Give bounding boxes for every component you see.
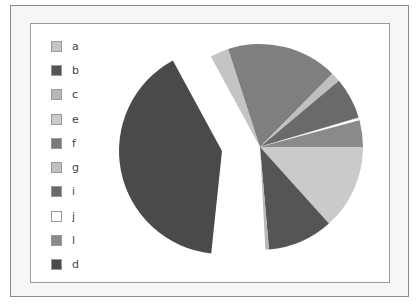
legend-swatch xyxy=(51,162,62,173)
legend-label: i xyxy=(72,185,75,198)
legend-item-a: a xyxy=(51,34,79,58)
legend-label: c xyxy=(72,88,78,101)
legend-label: g xyxy=(72,161,79,174)
legend-swatch xyxy=(51,186,62,197)
legend-label: l xyxy=(72,234,75,247)
legend-item-d: d xyxy=(51,253,79,277)
legend-swatch xyxy=(51,114,62,125)
legend-swatch xyxy=(51,89,62,100)
legend-item-j: j xyxy=(51,204,79,228)
legend-label: b xyxy=(72,64,79,77)
legend-swatch xyxy=(51,211,62,222)
legend-swatch xyxy=(51,259,62,270)
legend-label: e xyxy=(72,113,79,126)
legend-item-g: g xyxy=(51,155,79,179)
legend: a b c e f g i j l d xyxy=(51,34,79,277)
legend-label: d xyxy=(72,258,79,271)
legend-label: f xyxy=(72,137,76,150)
legend-swatch xyxy=(51,65,62,76)
legend-item-i: i xyxy=(51,180,79,204)
legend-swatch xyxy=(51,138,62,149)
legend-item-f: f xyxy=(51,131,79,155)
legend-item-l: l xyxy=(51,228,79,252)
legend-item-b: b xyxy=(51,58,79,82)
legend-swatch xyxy=(51,235,62,246)
legend-label: a xyxy=(72,40,79,53)
legend-item-e: e xyxy=(51,107,79,131)
legend-label: j xyxy=(72,210,75,223)
legend-item-c: c xyxy=(51,83,79,107)
legend-swatch xyxy=(51,41,62,52)
pie-slice-d xyxy=(119,60,222,253)
